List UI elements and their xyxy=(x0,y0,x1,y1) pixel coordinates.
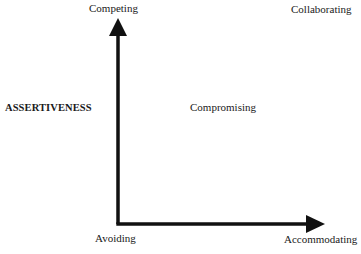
mode-label-collaborating: Collaborating xyxy=(291,3,352,15)
mode-label-avoiding: Avoiding xyxy=(95,232,136,244)
right-arrowhead-icon xyxy=(306,215,325,233)
mode-label-accommodating: Accommodating xyxy=(284,233,357,245)
conflict-modes-diagram: Competing Collaborating ASSERTIVENESS Co… xyxy=(0,0,361,254)
up-arrowhead-icon xyxy=(109,18,127,36)
mode-label-competing: Competing xyxy=(89,2,138,14)
axes-graphic xyxy=(0,0,361,254)
axis-title-assertiveness: ASSERTIVENESS xyxy=(5,102,92,113)
mode-label-compromising: Compromising xyxy=(190,101,256,113)
